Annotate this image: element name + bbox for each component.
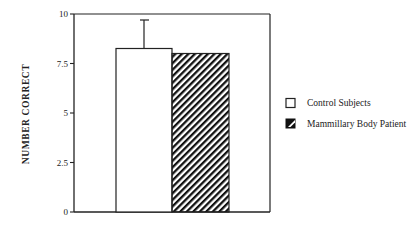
y-axis: 10 7.5 5 2.5 0 NUMBER CORRECT	[21, 9, 74, 217]
legend: Control Subjects Mammillary Body Patient	[286, 98, 407, 129]
y-tick-label-7-5: 7.5	[57, 59, 69, 69]
bars	[116, 20, 229, 212]
legend-label-patient: Mammillary Body Patient	[307, 119, 407, 129]
bar-mammillary-body-patient	[172, 54, 229, 213]
legend-swatch-open-box	[286, 99, 295, 108]
y-tick-label-0: 0	[64, 207, 69, 217]
bar-chart: 10 7.5 5 2.5 0 NUMBER CORRECT Control Su…	[0, 0, 420, 225]
y-tick-label-2-5: 2.5	[57, 158, 69, 168]
bar-control-subjects	[116, 49, 172, 213]
y-tick-label-5: 5	[64, 108, 69, 118]
y-axis-label: NUMBER CORRECT	[21, 64, 31, 165]
legend-label-control: Control Subjects	[307, 98, 371, 108]
y-tick-label-10: 10	[59, 9, 69, 19]
legend-swatch-hatched-box	[286, 119, 295, 128]
